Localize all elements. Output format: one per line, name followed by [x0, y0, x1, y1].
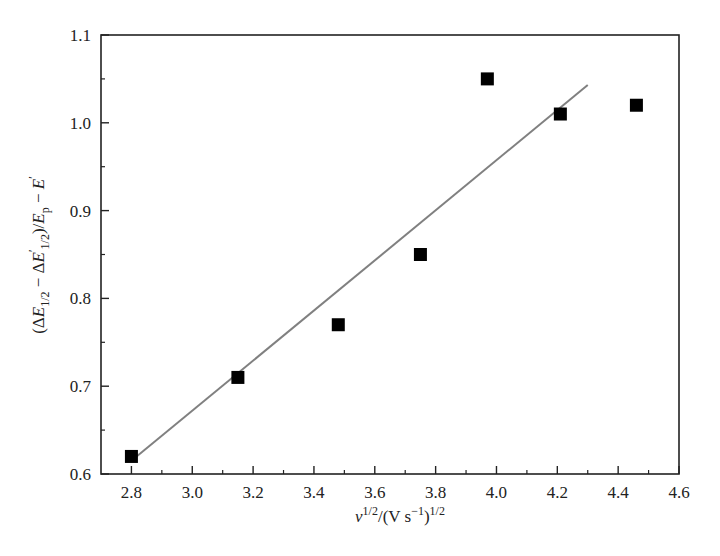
data-point-square — [125, 450, 138, 463]
y-tick-label: 0.7 — [70, 377, 92, 396]
x-tick-label: 3.6 — [364, 483, 385, 502]
data-point-square — [481, 72, 494, 85]
linear-fit-line — [131, 85, 587, 461]
y-tick-label: 0.8 — [70, 289, 91, 308]
x-tick-label: 3.8 — [425, 483, 446, 502]
data-point-square — [630, 99, 643, 112]
x-axis-title: ν1/2/(V s−1)1/2 — [355, 504, 445, 526]
y-tick-label: 1.0 — [70, 114, 91, 133]
x-tick-label: 4.4 — [608, 483, 630, 502]
x-tick-label: 2.8 — [121, 483, 142, 502]
x-tick-label: 4.2 — [547, 483, 568, 502]
x-axis-ticks: 2.83.03.23.43.63.84.04.24.44.6 — [121, 466, 690, 502]
data-point-square — [554, 108, 567, 121]
data-point-square — [332, 318, 345, 331]
data-points — [125, 72, 643, 463]
data-point-square — [414, 248, 427, 261]
y-tick-label: 0.6 — [70, 465, 91, 484]
y-axis-ticks: 0.60.70.80.91.01.1 — [70, 26, 109, 484]
y-axis-title: (ΔE1/2 − ΔE′1/2)/Ep − E′ — [26, 176, 52, 334]
data-point-square — [231, 371, 244, 384]
x-tick-label: 3.0 — [182, 483, 203, 502]
x-tick-label: 3.2 — [242, 483, 263, 502]
plot-frame — [101, 35, 679, 474]
x-tick-label: 4.6 — [668, 483, 689, 502]
y-tick-label: 0.9 — [70, 202, 91, 221]
y-tick-label: 1.1 — [70, 26, 91, 45]
x-tick-label: 3.4 — [303, 483, 325, 502]
scatter-chart: 2.83.03.23.43.63.84.04.24.44.6 0.60.70.8… — [0, 0, 720, 556]
fit-line — [131, 85, 587, 461]
x-tick-label: 4.0 — [486, 483, 507, 502]
